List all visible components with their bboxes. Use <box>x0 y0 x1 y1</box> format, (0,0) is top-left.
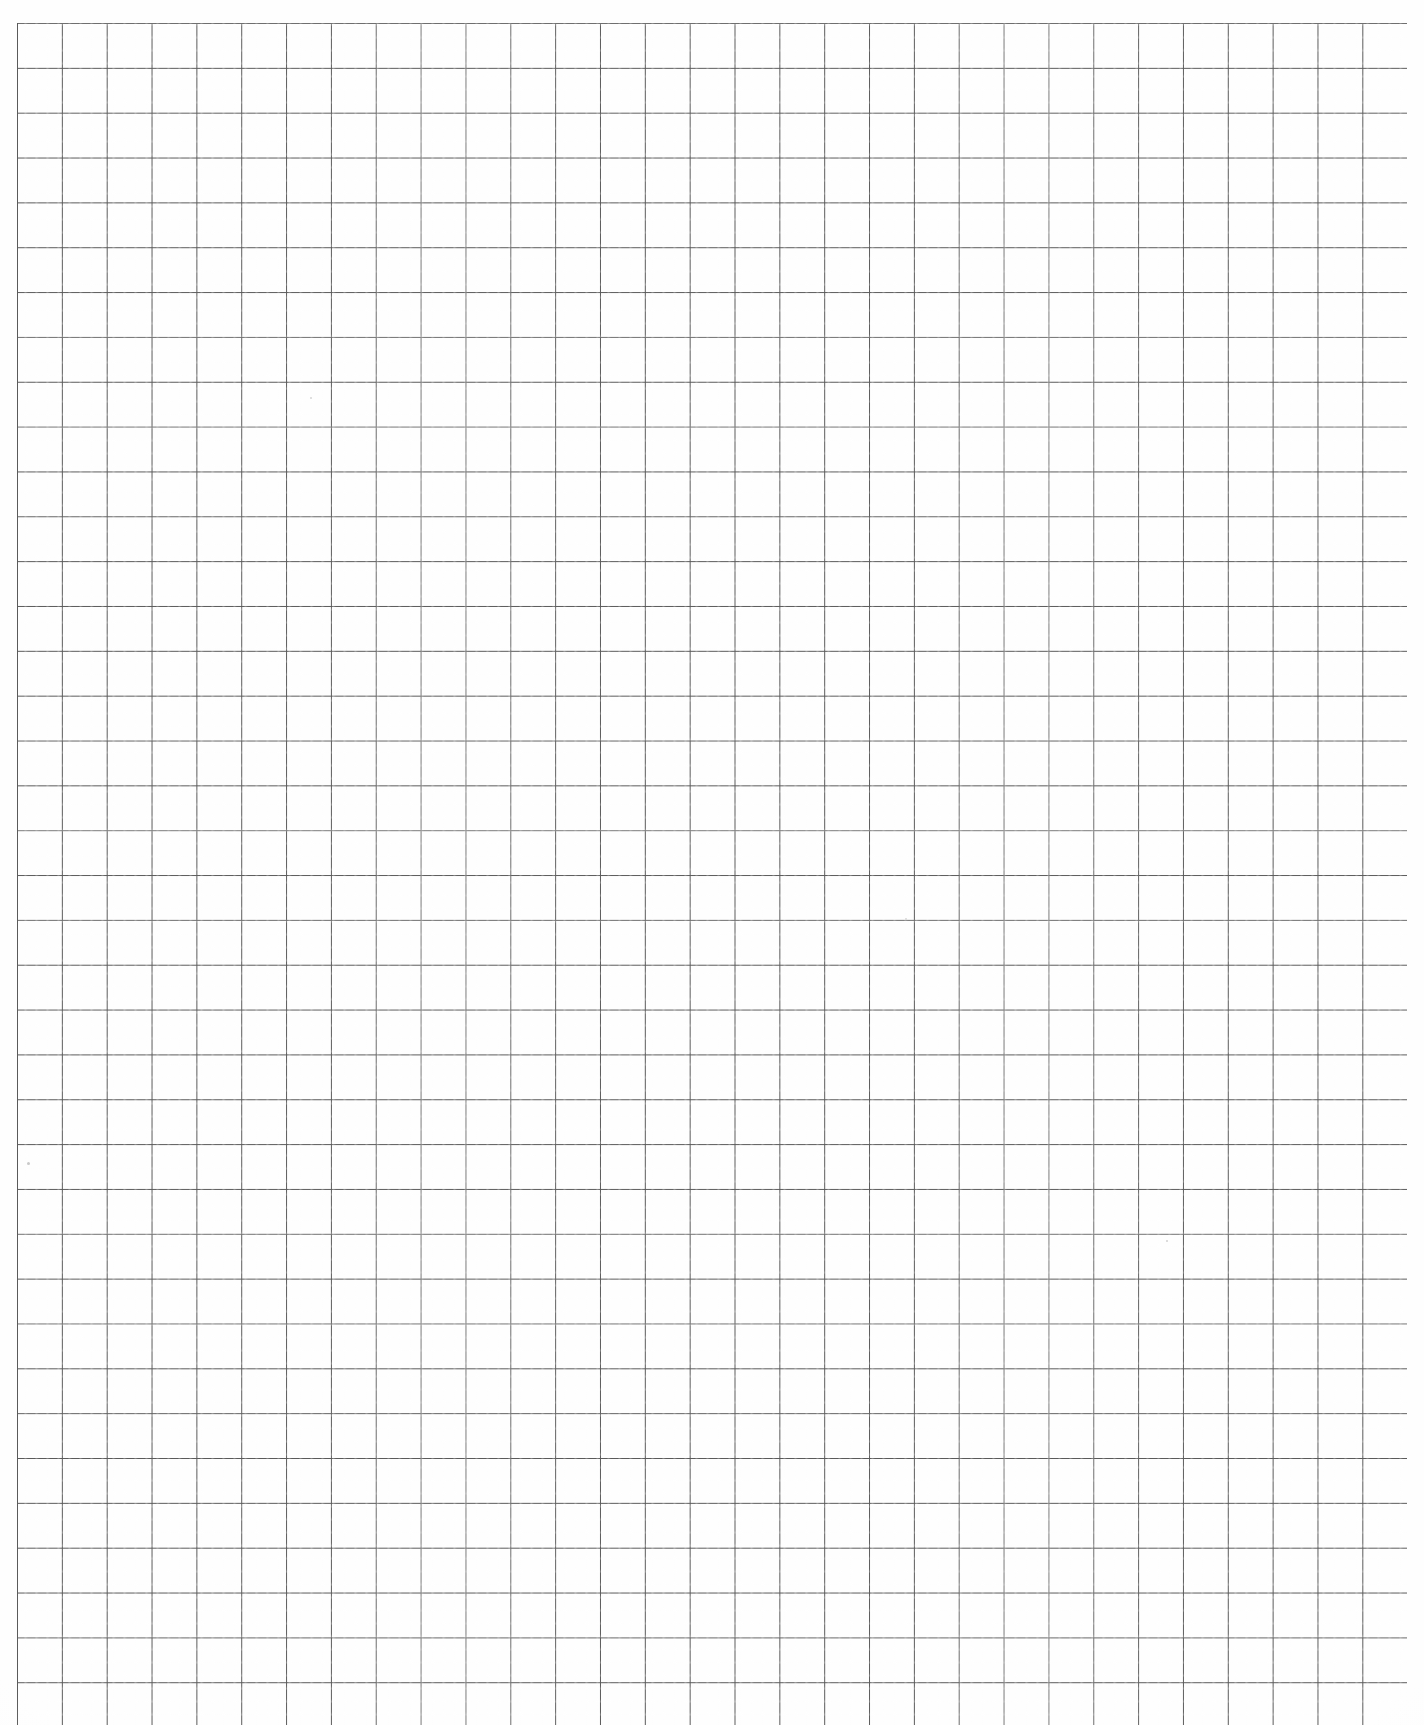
grid-right-edge-rule <box>17 23 18 1725</box>
grid-area <box>17 23 1407 1725</box>
scan-speck <box>27 1162 30 1165</box>
graph-paper-page <box>0 0 1424 1725</box>
scan-speck <box>310 397 312 399</box>
scan-speck <box>1166 1240 1168 1242</box>
scan-speck <box>905 918 907 920</box>
grid-vertical-rules <box>17 23 1407 1725</box>
